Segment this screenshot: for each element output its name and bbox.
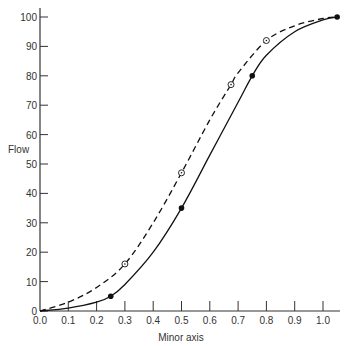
y-tick-label: 10 — [26, 277, 38, 288]
y-tick-label: 70 — [26, 100, 38, 111]
x-tick-label: 0.0 — [33, 315, 47, 326]
y-tick-label: 40 — [26, 188, 38, 199]
curves — [40, 17, 337, 311]
flow-chart: 01020304050607080901000.00.10.20.30.40.5… — [0, 0, 344, 346]
x-tick-label: 0.6 — [203, 315, 217, 326]
filled-data-point — [334, 14, 340, 20]
x-tick-label: 0.3 — [118, 315, 132, 326]
open-data-point-center — [124, 263, 126, 265]
open-data-point-center — [181, 172, 183, 174]
x-tick-label: 0.1 — [61, 315, 75, 326]
x-tick-label: 0.5 — [175, 315, 189, 326]
dashed-curve — [40, 17, 337, 311]
filled-data-point — [108, 294, 114, 300]
x-tick-label: 1.0 — [316, 315, 330, 326]
y-tick-label: 80 — [26, 71, 38, 82]
y-axis-label: Flow — [8, 144, 30, 155]
open-data-point-center — [230, 84, 232, 86]
y-tick-label: 60 — [26, 130, 38, 141]
y-tick-label: 90 — [26, 41, 38, 52]
axes: 01020304050607080901000.00.10.20.30.40.5… — [20, 8, 340, 326]
open-data-point-center — [266, 40, 268, 42]
x-tick-label: 0.8 — [259, 315, 273, 326]
x-axis-label: Minor axis — [158, 332, 204, 343]
solid-curve — [40, 17, 337, 311]
x-tick-label: 0.4 — [146, 315, 160, 326]
filled-data-point — [249, 73, 255, 79]
filled-data-point — [179, 205, 185, 211]
markers — [108, 14, 340, 299]
y-tick-label: 20 — [26, 247, 38, 258]
y-tick-label: 30 — [26, 218, 38, 229]
x-tick-label: 0.9 — [288, 315, 302, 326]
y-tick-label: 100 — [20, 12, 37, 23]
x-tick-label: 0.7 — [231, 315, 245, 326]
x-tick-label: 0.2 — [90, 315, 104, 326]
y-tick-label: 50 — [26, 159, 38, 170]
